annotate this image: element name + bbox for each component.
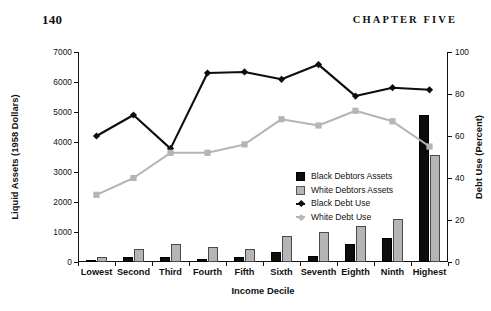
- right-tick: [448, 220, 452, 221]
- right-tick-label: 100: [455, 48, 469, 56]
- marker-white-debt-use: [278, 116, 284, 122]
- x-tick: [337, 262, 338, 266]
- legend-item: White Debtors Assets: [296, 184, 436, 198]
- x-tick-label: Seventh: [301, 267, 337, 277]
- marker-white-debt-use: [167, 150, 173, 156]
- x-tick: [411, 262, 412, 266]
- right-tick: [448, 178, 452, 179]
- x-tick-label: Sixth: [270, 267, 292, 277]
- marker-black-debt-use: [278, 76, 285, 83]
- running-head: CHAPTER FIVE: [353, 14, 457, 25]
- legend-item: Black Debtors Assets: [296, 170, 436, 184]
- legend-label: Black Debt Use: [311, 199, 370, 208]
- marker-white-debt-use: [315, 122, 321, 128]
- legend-label: White Debtors Assets: [311, 186, 393, 195]
- marker-white-debt-use: [204, 150, 210, 156]
- x-tick-label: Lowest: [81, 267, 113, 277]
- line-black-debt-use: [97, 65, 430, 149]
- y-axis-title-left: Liquid Assets (1958 Dollars): [9, 94, 20, 219]
- x-tick: [115, 262, 116, 266]
- legend-swatch-black-icon: [296, 172, 305, 181]
- marker-white-debt-use: [241, 141, 247, 147]
- x-tick-label: Eighth: [341, 267, 370, 277]
- x-tick: [78, 262, 79, 266]
- x-tick-label: Third: [159, 267, 182, 277]
- marker-white-debt-use: [426, 143, 432, 149]
- legend-swatch-gray-icon: [296, 186, 305, 195]
- figure-page: 140 CHAPTER FIVE Liquid Assets (1958 Dol…: [0, 0, 491, 311]
- legend-item: Black Debt Use: [296, 197, 436, 211]
- right-tick-label: 40: [455, 174, 464, 182]
- right-tick: [448, 136, 452, 137]
- x-tick-label: Ninth: [381, 267, 404, 277]
- legend-line-gray-icon: [296, 213, 305, 222]
- chart-legend: Black Debtors AssetsWhite Debtors Assets…: [296, 170, 436, 224]
- x-tick: [189, 262, 190, 266]
- x-tick: [152, 262, 153, 266]
- left-tick-label: 6000: [53, 78, 72, 86]
- right-tick-label: 20: [455, 216, 464, 224]
- left-tick-label: 3000: [53, 168, 72, 176]
- x-tick-label: Highest: [413, 267, 447, 277]
- legend-label: Black Debtors Assets: [311, 172, 392, 181]
- right-tick-label: 0: [455, 258, 460, 266]
- marker-white-debt-use: [352, 108, 358, 114]
- marker-white-debt-use: [130, 175, 136, 181]
- marker-white-debt-use: [93, 192, 99, 198]
- legend-item: White Debt Use: [296, 211, 436, 225]
- left-tick-label: 0: [67, 258, 72, 266]
- legend-label: White Debt Use: [311, 213, 371, 222]
- marker-black-debt-use: [426, 86, 433, 93]
- legend-line-black-icon: [296, 199, 305, 208]
- left-tick-label: 7000: [53, 48, 72, 56]
- left-tick-label: 2000: [53, 198, 72, 206]
- marker-black-debt-use: [204, 69, 211, 76]
- x-axis-title: Income Decile: [231, 285, 294, 296]
- line-group: [78, 52, 448, 262]
- x-tick-label: Second: [117, 267, 150, 277]
- page-folio: 140: [42, 12, 62, 28]
- right-tick: [448, 52, 452, 53]
- chart-figure: Liquid Assets (1958 Dollars) Debt Use (P…: [0, 38, 491, 311]
- x-tick: [448, 262, 449, 266]
- right-tick-label: 60: [455, 132, 464, 140]
- x-tick: [263, 262, 264, 266]
- x-tick-label: Fifth: [235, 267, 255, 277]
- plot-area: 01000200030004000500060007000 0204060801…: [78, 52, 448, 262]
- x-tick: [300, 262, 301, 266]
- marker-black-debt-use: [389, 84, 396, 91]
- left-tick-label: 4000: [53, 138, 72, 146]
- left-tick-label: 5000: [53, 108, 72, 116]
- y-axis-title-right: Debt Use (Percent): [473, 115, 484, 199]
- x-tick: [374, 262, 375, 266]
- right-tick-label: 80: [455, 90, 464, 98]
- x-tick: [226, 262, 227, 266]
- x-tick-label: Fourth: [193, 267, 222, 277]
- left-tick-label: 1000: [53, 228, 72, 236]
- marker-white-debt-use: [389, 118, 395, 124]
- right-tick: [448, 94, 452, 95]
- marker-black-debt-use: [241, 68, 248, 75]
